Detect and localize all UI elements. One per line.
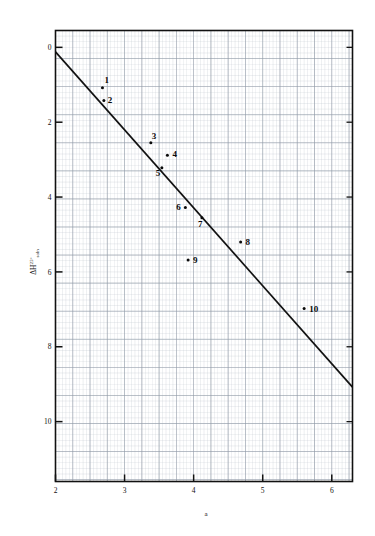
data-point-label: 3 xyxy=(152,131,157,141)
data-point-marker xyxy=(239,240,242,243)
data-point-label: 7 xyxy=(198,219,203,229)
y-tick-label: 8 xyxy=(48,342,52,351)
data-point-label: 9 xyxy=(193,255,198,265)
data-point-label: 2 xyxy=(108,95,113,105)
x-tick-label: 2 xyxy=(54,486,58,495)
data-point-marker xyxy=(149,141,152,144)
data-point-label: 10 xyxy=(309,304,319,314)
x-tick-label: 4 xyxy=(192,486,196,495)
data-point-label: 1 xyxy=(104,75,109,85)
data-point-marker xyxy=(184,206,187,209)
y-tick-label: 2 xyxy=(48,118,52,127)
chart-canvas: 0246810 23456 12345678910 ΔH25°soln a xyxy=(0,0,375,536)
data-point-marker xyxy=(160,166,163,169)
x-tick-label: 5 xyxy=(261,486,265,495)
data-point-label: 5 xyxy=(156,168,161,178)
data-point-marker xyxy=(101,86,104,89)
data-point-marker xyxy=(303,307,306,310)
y-tick-label: 4 xyxy=(48,193,52,202)
y-tick-label: 10 xyxy=(44,417,52,426)
scatter-chart-figure: 0246810 23456 12345678910 ΔH25°soln a xyxy=(0,0,375,536)
data-point-marker xyxy=(166,154,169,157)
data-point-marker xyxy=(102,99,105,102)
data-point-label: 6 xyxy=(176,202,181,212)
y-tick-label: 6 xyxy=(48,268,52,277)
data-point-label: 4 xyxy=(172,149,177,159)
data-point-marker xyxy=(187,258,190,261)
y-tick-label: 0 xyxy=(48,43,52,52)
data-point-label: 8 xyxy=(246,237,251,247)
x-tick-label: 3 xyxy=(123,486,127,495)
x-tick-label: 6 xyxy=(330,486,334,495)
